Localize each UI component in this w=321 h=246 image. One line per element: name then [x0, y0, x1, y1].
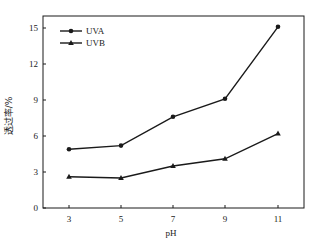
y-tick-label: 9: [34, 95, 39, 105]
x-axis-title: pH: [166, 228, 178, 238]
x-tick-label: 9: [223, 214, 228, 224]
x-tick-label: 3: [67, 214, 72, 224]
legend-item-uva: UVA: [60, 26, 105, 36]
line-chart: 03691215 357911 UVAUVB pH: [0, 0, 321, 246]
x-tick-label: 5: [119, 214, 124, 224]
x-tick-label: 11: [274, 214, 283, 224]
legend-label: UVB: [86, 38, 105, 48]
legend-label: UVA: [86, 26, 105, 36]
y-tick-label: 15: [29, 23, 39, 33]
legend: UVAUVB: [60, 26, 105, 48]
y-tick-label: 12: [29, 59, 38, 69]
y-tick-label: 0: [34, 203, 39, 213]
y-axis-title: 透过率/%: [2, 97, 15, 136]
x-tick-label: 7: [171, 214, 176, 224]
series-uvb: [66, 131, 281, 180]
legend-item-uvb: UVB: [60, 38, 105, 48]
y-tick-label: 3: [34, 167, 39, 177]
y-tick-label: 6: [34, 131, 39, 141]
